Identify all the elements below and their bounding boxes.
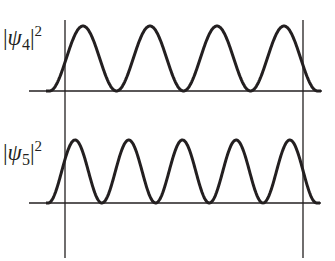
psi4-probability-curve: [46, 26, 321, 91]
wavefunction-diagram: |ψ4|2 |ψ5|2: [0, 0, 335, 261]
psi5-label: |ψ5|2: [3, 138, 42, 168]
psi5-probability-curve: [46, 140, 320, 203]
psi4-label: |ψ4|2: [3, 23, 42, 53]
panel-psi4: |ψ4|2: [3, 23, 322, 91]
panel-psi5: |ψ5|2: [3, 138, 321, 203]
